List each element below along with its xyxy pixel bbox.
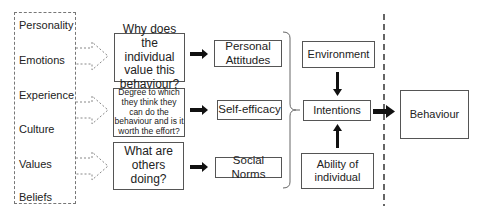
factor-emotions: Emotions bbox=[19, 54, 65, 66]
behaviour-box: Behaviour bbox=[400, 90, 469, 139]
factor-culture: Culture bbox=[19, 123, 54, 135]
factor-personality: Personality bbox=[19, 19, 73, 31]
question-efficacy-box: Degree to which they think they can do t… bbox=[113, 88, 185, 137]
dashed-arrow-icon bbox=[76, 42, 108, 180]
factor-experience: Experience bbox=[19, 89, 74, 101]
question-others-box: What are others doing? bbox=[113, 142, 184, 190]
question-value-box: Why does the individual value this behav… bbox=[114, 33, 185, 82]
ability-box: Ability of individual bbox=[301, 153, 374, 189]
social-norms-box: Social Norms bbox=[215, 157, 282, 178]
brace-icon bbox=[283, 32, 296, 188]
factor-beliefs: Beliefs bbox=[19, 191, 52, 203]
factor-values: Values bbox=[19, 158, 52, 170]
environment-box: Environment bbox=[302, 41, 375, 68]
intentions-box: Intentions bbox=[303, 100, 371, 121]
arrow-right-icon bbox=[190, 49, 208, 172]
self-efficacy-box: Self-efficacy bbox=[217, 100, 282, 120]
personal-attitudes-box: Personal Attitudes bbox=[214, 40, 282, 67]
factors-group: Personality Emotions Experience Culture … bbox=[14, 12, 76, 204]
